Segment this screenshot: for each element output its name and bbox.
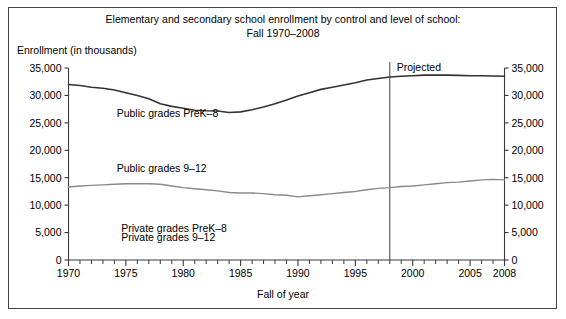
data-series-group: [69, 75, 505, 197]
chart-figure: Elementary and secondary school enrollme…: [0, 0, 566, 319]
y-tick-label-right: 35,000: [512, 62, 544, 74]
y-tick-label-left: 15,000: [29, 172, 61, 184]
y-tick-label-left: 5,000: [35, 226, 61, 238]
y-tick-label-right: 20,000: [512, 144, 544, 156]
y-tick-label-right: 30,000: [512, 89, 544, 101]
y-tick-label-left: 25,000: [29, 117, 61, 129]
tick-labels-group: 005,0005,00010,00010,00015,00015,00020,0…: [29, 62, 543, 279]
series-line-public-grades-9-12: [69, 179, 505, 197]
x-tick-label: 1985: [229, 267, 253, 279]
series-annotations-group: Public grades PreK–8Public grades 9–12Pr…: [117, 61, 441, 243]
x-tick-label: 1975: [114, 267, 138, 279]
x-tick-label: 2000: [401, 267, 425, 279]
x-tick-label: 2008: [493, 267, 517, 279]
annotation-public-grades-prek-8: Public grades PreK–8: [117, 107, 219, 119]
y-tick-label-left: 30,000: [29, 89, 61, 101]
y-tick-label-right: 0: [512, 254, 518, 266]
y-tick-label-left: 35,000: [29, 62, 61, 74]
y-tick-label-right: 10,000: [512, 199, 544, 211]
annotation-projected: Projected: [397, 61, 442, 73]
y-tick-label-left: 0: [56, 254, 62, 266]
plot-area: 005,0005,00010,00010,00015,00015,00020,0…: [0, 0, 566, 319]
y-tick-label-right: 15,000: [512, 172, 544, 184]
x-axis-title: Fall of year: [0, 288, 566, 300]
x-tick-label: 1990: [286, 267, 310, 279]
x-tick-label: 1970: [57, 267, 81, 279]
x-tick-label: 2005: [458, 267, 482, 279]
x-tick-label: 1980: [172, 267, 196, 279]
y-tick-label-left: 10,000: [29, 199, 61, 211]
y-tick-label-left: 20,000: [29, 144, 61, 156]
y-tick-label-right: 25,000: [512, 117, 544, 129]
y-tick-label-right: 5,000: [512, 226, 538, 238]
annotation-private-grades-9-12: Private grades 9–12: [121, 231, 215, 243]
x-tick-label: 1995: [344, 267, 368, 279]
annotation-public-grades-9-12: Public grades 9–12: [117, 162, 207, 174]
